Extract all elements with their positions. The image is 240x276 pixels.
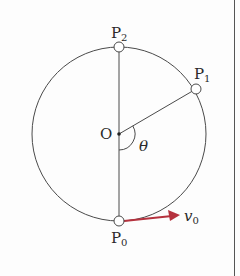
label-center-o: O (100, 125, 112, 143)
label-p0: P0 (111, 229, 127, 248)
label-theta: θ (139, 137, 148, 155)
point-p0-marker (114, 216, 124, 226)
velocity-arrow-shaft (124, 216, 172, 221)
circular-motion-diagram: P2 P1 P0 O θ v0 (0, 0, 240, 276)
label-p2: P2 (111, 24, 127, 43)
point-p1-marker (191, 84, 201, 94)
center-point-o (117, 132, 121, 136)
label-p1: P1 (194, 65, 210, 84)
radius-line-op1 (119, 89, 196, 134)
label-velocity: v0 (184, 207, 199, 226)
point-p2-marker (114, 42, 124, 52)
velocity-arrow-head-icon (168, 210, 180, 221)
diagram-canvas: P2 P1 P0 O θ v0 (0, 0, 240, 276)
